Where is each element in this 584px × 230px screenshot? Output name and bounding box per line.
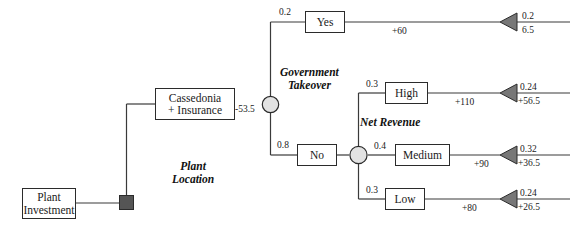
terminal-yes-prob: 0.2 [522,11,534,21]
decision-tree-diagram: Plant Investment Cassedonia + Insurance … [0,0,584,230]
terminal-triangle-medium [500,146,517,164]
label-prob-high: 0.3 [366,79,378,90]
terminal-triangle-low [500,190,517,208]
label-government-takeover: Government Takeover [280,66,339,92]
terminal-triangle-yes [500,13,517,31]
terminal-high-value: +56.5 [518,96,540,106]
label-government-takeover-line1: Government [280,66,339,78]
terminal-medium-value: +36.5 [518,158,540,168]
label-payoff-yes: +60 [392,26,407,37]
label-net-revenue: Net Revenue [360,116,420,129]
node-plant-investment[interactable]: Plant Investment [22,188,76,219]
label-payoff-low: +80 [462,203,477,214]
label-prob-low: 0.3 [366,185,378,196]
label-prob-no: 0.8 [277,140,289,151]
node-no-label: No [310,149,324,162]
node-plant-investment-line1: Plant [37,191,61,204]
node-high[interactable]: High [385,82,428,104]
terminal-low-value: +26.5 [518,202,540,212]
label-plant-location: Plant Location [172,160,214,186]
node-no[interactable]: No [297,144,337,166]
terminal-triangle-high [500,84,517,102]
node-yes-label: Yes [317,16,334,29]
label-plant-location-line1: Plant [180,160,206,172]
chance-node-net-revenue [350,146,367,163]
label-government-takeover-line2: Takeover [288,79,331,91]
chance-node-government-takeover [262,96,278,112]
node-low-label: Low [394,193,415,206]
node-yes[interactable]: Yes [305,11,345,33]
label-cassedonia-cost: -53.5 [235,104,255,115]
label-payoff-medium: +90 [474,159,489,170]
node-medium-label: Medium [403,149,442,162]
label-plant-location-line2: Location [172,173,214,185]
label-prob-medium: 0.4 [374,141,386,152]
label-payoff-high: +110 [455,97,474,108]
decision-node-plant-location[interactable] [119,195,134,210]
node-medium[interactable]: Medium [395,144,450,166]
node-high-label: High [395,87,418,100]
node-low[interactable]: Low [385,188,425,210]
node-cassedonia-insurance[interactable]: Cassedonia + Insurance [155,88,235,120]
label-prob-yes: 0.2 [279,7,291,18]
tree-connector-lines [0,0,584,230]
terminal-yes-value: 6.5 [522,25,534,35]
terminal-low-prob: 0.24 [520,188,537,198]
terminal-medium-prob: 0.32 [520,144,537,154]
node-cassedonia-line1: Cassedonia [169,92,221,105]
terminal-high-prob: 0.24 [520,82,537,92]
node-plant-investment-line2: Investment [23,204,74,217]
node-cassedonia-line2: + Insurance [168,104,222,117]
